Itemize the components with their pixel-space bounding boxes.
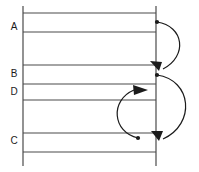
row-label-d: D: [10, 86, 17, 97]
arc-b-to-c-arrowhead: [151, 131, 163, 141]
row-label-c: C: [10, 135, 17, 146]
horizontal-lines-group: [23, 13, 156, 152]
arc-a-to-b-source-dot: [155, 20, 159, 24]
diagram-svg: A B D C: [0, 0, 199, 172]
row-labels-group: A B D C: [10, 21, 17, 146]
arc-c-to-d: [117, 85, 148, 140]
arc-c-to-d-arrowhead: [133, 85, 148, 95]
arc-c-to-d-path: [117, 90, 138, 138]
axis-group: [23, 6, 156, 166]
arc-c-to-d-source-dot: [136, 136, 140, 140]
row-label-a: A: [11, 21, 18, 32]
arc-a-to-b: [150, 20, 180, 71]
arc-b-to-c-path: [157, 75, 186, 139]
diagram-canvas: A B D C: [0, 0, 199, 172]
arc-b-to-c-source-dot: [155, 73, 159, 77]
row-label-b: B: [11, 68, 18, 79]
